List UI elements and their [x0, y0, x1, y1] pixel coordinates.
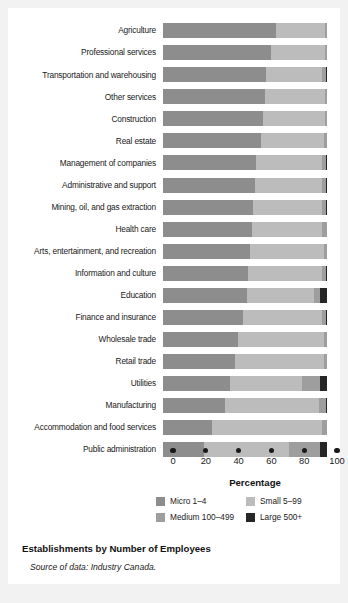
bar-segment-micro: [163, 376, 230, 391]
bar-segment-small: [230, 376, 302, 391]
bar-segment-small: [256, 155, 322, 170]
bar-segment-micro: [163, 244, 250, 259]
bar-track: [163, 310, 327, 325]
bar-row: Retail trade: [8, 352, 340, 370]
bar-segment-small: [253, 200, 322, 215]
tick-dot-icon: [302, 448, 307, 453]
chart-legend: Micro 1–4Small 5–99Medium 100–499Large 5…: [156, 496, 336, 528]
bar-row: Other services: [8, 88, 340, 106]
bar-segment-small: [248, 266, 322, 281]
bar-segment-micro: [163, 266, 248, 281]
bar-track: [163, 222, 327, 237]
bar-row: Utilities: [8, 375, 340, 393]
bar-segment-small: [266, 67, 322, 82]
bar-segment-micro: [163, 354, 235, 369]
bar-row: Real estate: [8, 132, 340, 150]
bar-segment-micro: [163, 420, 212, 435]
figure-panel: AgricultureProfessional servicesTranspor…: [8, 8, 340, 584]
category-label: Information and culture: [8, 269, 163, 278]
bar-track: [163, 45, 327, 60]
bar-segment-large: [326, 310, 327, 325]
bar-segment-micro: [163, 111, 263, 126]
category-label: Construction: [8, 115, 163, 124]
category-label: Accommodation and food services: [8, 423, 163, 432]
bar-row: Health care: [8, 220, 340, 238]
category-label: Retail trade: [8, 357, 163, 366]
category-label: Wholesale trade: [8, 335, 163, 344]
bar-segment-micro: [163, 332, 238, 347]
bar-segment-micro: [163, 288, 247, 303]
category-label: Administrative and support: [8, 181, 163, 190]
category-label: Manufacturing: [8, 401, 163, 410]
legend-label: Large 500+: [260, 512, 302, 522]
bar-track: [163, 111, 327, 126]
bar-segment-small: [235, 354, 324, 369]
bar-segment-medium: [325, 111, 327, 126]
category-label: Transportation and warehousing: [8, 71, 163, 80]
bar-segment-large: [326, 266, 327, 281]
bar-track: [163, 354, 327, 369]
legend-label: Micro 1–4: [170, 496, 206, 506]
bar-segment-micro: [163, 398, 225, 413]
bar-track: [163, 178, 327, 193]
bar-segment-small: [212, 420, 322, 435]
bar-segment-large: [326, 178, 327, 193]
bar-segment-small: [247, 288, 314, 303]
bar-track: [163, 266, 327, 281]
bar-track: [163, 398, 327, 413]
bar-segment-small: [255, 178, 322, 193]
bar-segment-large: [326, 200, 327, 215]
legend-swatch-icon: [156, 513, 165, 522]
tick-dot-icon: [269, 448, 274, 453]
legend-item: Large 500+: [246, 512, 336, 522]
bar-segment-medium: [302, 376, 320, 391]
bar-segment-medium: [325, 23, 327, 38]
bar-row: Education: [8, 286, 340, 304]
bar-track: [163, 244, 327, 259]
bar-segment-small: [261, 133, 323, 148]
legend-item: Medium 100–499: [156, 512, 246, 522]
bar-segment-small: [225, 398, 318, 413]
bar-track: [163, 200, 327, 215]
legend-swatch-icon: [156, 497, 165, 506]
bar-segment-micro: [163, 89, 265, 104]
bar-track: [163, 89, 327, 104]
bar-segment-medium: [325, 89, 327, 104]
tick-dot-icon: [236, 448, 241, 453]
legend-item: Micro 1–4: [156, 496, 246, 506]
x-axis-tick-label: 100: [329, 456, 345, 466]
bar-segment-small: [243, 310, 322, 325]
bar-row: Manufacturing: [8, 397, 340, 415]
bar-track: [163, 133, 327, 148]
bar-row: Mining, oil, and gas extraction: [8, 198, 340, 216]
x-axis-tick-label: 20: [201, 456, 211, 466]
bar-track: [163, 67, 327, 82]
bar-track: [163, 376, 327, 391]
figure-source-note: Source of data: Industry Canada.: [30, 562, 156, 572]
legend-label: Small 5–99: [260, 496, 302, 506]
category-label: Professional services: [8, 48, 163, 57]
bar-segment-large: [320, 288, 327, 303]
bar-segment-large: [326, 155, 327, 170]
x-axis-tick-label: 40: [233, 456, 243, 466]
category-label: Agriculture: [8, 26, 163, 35]
legend-label: Medium 100–499: [170, 512, 234, 522]
bar-segment-small: [250, 244, 324, 259]
bar-row: Finance and insurance: [8, 308, 340, 326]
x-axis-tick-label: 60: [266, 456, 276, 466]
bar-segment-micro: [163, 133, 261, 148]
category-label: Finance and insurance: [8, 313, 163, 322]
legend-item: Small 5–99: [246, 496, 336, 506]
bar-segment-large: [320, 376, 327, 391]
bar-row: Professional services: [8, 44, 340, 62]
x-axis-title: Percentage: [173, 477, 337, 488]
bar-segment-micro: [163, 178, 255, 193]
tick-dot-icon: [170, 448, 175, 453]
bar-track: [163, 23, 327, 38]
figure-title: Establishments by Number of Employees: [22, 543, 211, 554]
bar-segment-small: [238, 332, 323, 347]
bar-segment-large: [326, 398, 327, 413]
bar-track: [163, 332, 327, 347]
bar-row: Wholesale trade: [8, 330, 340, 348]
legend-swatch-icon: [246, 513, 255, 522]
